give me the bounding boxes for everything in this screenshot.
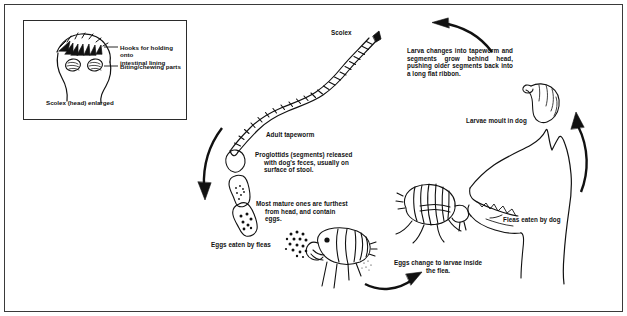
scolex-detail-inset: Hooks for holding onto intestinal lining…	[23, 20, 187, 120]
flea-eating-eggs-drawing	[285, 228, 377, 288]
proglottid-segment-lower	[233, 203, 258, 237]
tapeworm-life-cycle-figure: Hooks for holding onto intestinal lining…	[0, 0, 627, 316]
label-scolex: Scolex	[331, 29, 352, 37]
arrow-right-upward	[571, 112, 587, 192]
larva-drawing	[523, 84, 559, 123]
label-larvae-moult-in-dog: Larvae moult in dog	[466, 117, 527, 125]
proglottid-segment-middle	[229, 175, 250, 207]
tapeworm-eggs-cloud	[285, 231, 308, 259]
label-fleas-eaten-by-dog: Fleas eaten by dog	[503, 216, 561, 224]
flea-with-larvae-drawing	[396, 184, 469, 243]
arrow-left-downward	[198, 128, 222, 200]
inset-leader-lines	[24, 21, 188, 121]
label-most-mature-segments: Most mature ones are furthest from head,…	[256, 200, 389, 223]
label-eggs-change-to-larvae: Eggs change to larvae inside the flea.	[380, 259, 496, 274]
label-proglottids-released: Proglottids (segments) released with dog…	[255, 151, 390, 174]
arrow-bottom-rightward	[365, 272, 422, 289]
label-larva-changes-into-tapeworm: Larva changes into tapeworm and segments…	[407, 47, 513, 77]
label-adult-tapeworm: Adult tapeworm	[266, 131, 314, 139]
label-eggs-eaten-by-fleas: Eggs eaten by fleas	[211, 241, 271, 249]
proglottid-segment-upper	[226, 150, 245, 172]
